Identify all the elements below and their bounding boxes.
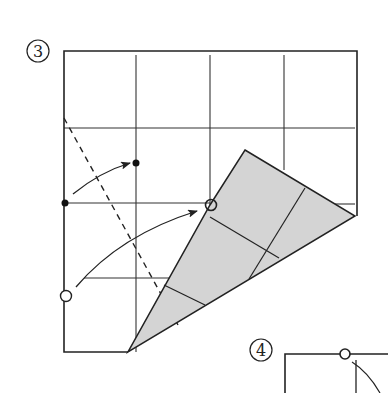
step-4-paper [285,349,388,393]
step-4-badge: 4 [250,339,272,361]
folded-flap [128,150,355,352]
source-dot [62,200,69,207]
origami-diagram: 3 4 [0,0,388,393]
step-3-number: 3 [33,42,43,61]
source-circle [61,291,72,302]
step-3-badge: 3 [27,40,49,62]
step-4-number: 4 [256,341,266,360]
arrow-upper [73,163,130,194]
target-dot [133,160,140,167]
